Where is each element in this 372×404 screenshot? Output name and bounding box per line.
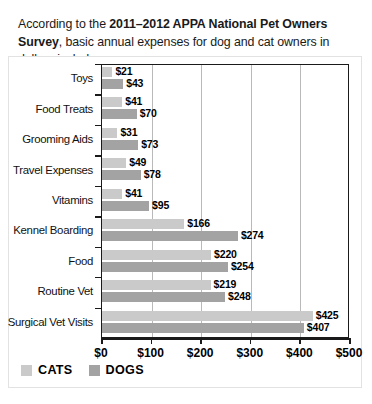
- category-label: Kennel Boarding: [13, 224, 93, 236]
- category-label: Food: [68, 255, 93, 267]
- legend-swatch-dogs-icon: [89, 365, 100, 376]
- y-tick: [95, 64, 101, 65]
- bar-dogs: [102, 292, 225, 302]
- x-axis-label: $500: [336, 346, 363, 360]
- legend-label-dogs: DOGS: [106, 363, 144, 377]
- bar-dogs: [102, 201, 149, 211]
- bar-row: $21$43: [102, 65, 348, 95]
- x-tick: [151, 338, 153, 344]
- bar-row: $41$95: [102, 187, 348, 217]
- x-tick: [299, 338, 301, 344]
- x-tick: [200, 338, 202, 344]
- pet-expenses-infographic: According to the 2011–2012 APPA National…: [0, 0, 372, 404]
- bar-value-label: $41: [125, 187, 142, 199]
- category-label: Surgical Vet Visits: [8, 316, 93, 328]
- category-label: Toys: [71, 72, 93, 84]
- bar-value-label: $166: [187, 217, 210, 229]
- bar-value-label: $248: [228, 290, 251, 302]
- y-tick: [95, 277, 101, 278]
- bar-dogs: [102, 79, 123, 89]
- bar-cats: [102, 189, 122, 199]
- bar-value-label: $220: [214, 248, 237, 260]
- x-tick: [250, 338, 252, 344]
- x-axis-label: $300: [236, 346, 263, 360]
- legend-item-cats: CATS: [21, 363, 73, 377]
- x-axis-label: $0: [94, 346, 107, 360]
- bar-value-label: $31: [120, 126, 137, 138]
- category-label: Travel Expenses: [13, 164, 93, 176]
- y-tick: [95, 155, 101, 156]
- bar-cats: [102, 219, 184, 229]
- y-tick: [95, 216, 101, 217]
- legend-swatch-cats-icon: [21, 365, 32, 376]
- bar-row: $166$274: [102, 217, 348, 247]
- bar-dogs: [102, 262, 228, 272]
- bar-dogs: [102, 109, 137, 119]
- bar-value-label: $43: [126, 77, 143, 89]
- bar-value-label: $219: [214, 278, 237, 290]
- category-axis: ToysFood TreatsGrooming AidsTravel Expen…: [9, 64, 97, 338]
- legend-item-dogs: DOGS: [89, 363, 144, 377]
- bar-value-label: $274: [241, 229, 264, 241]
- category-label: Routine Vet: [37, 285, 93, 297]
- y-tick: [95, 308, 101, 309]
- bar-value-label: $425: [316, 309, 339, 321]
- bar-rows: $21$43$41$70$31$73$49$78$41$95$166$274$2…: [102, 65, 348, 337]
- bar-cats: [102, 158, 126, 168]
- bar-value-label: $254: [231, 260, 254, 272]
- bar-row: $31$73: [102, 126, 348, 156]
- chart-legend: CATS DOGS: [21, 363, 144, 377]
- category-label: Food Treats: [36, 103, 93, 115]
- bar-row: $220$254: [102, 248, 348, 278]
- plot-area: $21$43$41$70$31$73$49$78$41$95$166$274$2…: [101, 64, 349, 338]
- bar-cats: [102, 311, 313, 321]
- bar-value-label: $78: [144, 168, 161, 180]
- bar-value-label: $49: [129, 156, 146, 168]
- bar-value-label: $73: [141, 138, 158, 150]
- bar-dogs: [102, 323, 304, 333]
- x-tick: [349, 338, 351, 344]
- bar-row: $219$248: [102, 278, 348, 308]
- y-tick: [95, 125, 101, 126]
- bar-value-label: $21: [115, 65, 132, 77]
- bar-dogs: [102, 231, 238, 241]
- bar-row: $49$78: [102, 156, 348, 186]
- bar-cats: [102, 67, 112, 77]
- x-axis-label: $400: [286, 346, 313, 360]
- x-axis-label: $200: [187, 346, 214, 360]
- y-tick: [95, 186, 101, 187]
- bar-cats: [102, 128, 117, 138]
- bar-row: $425$407: [102, 309, 348, 339]
- bar-value-label: $41: [125, 95, 142, 107]
- chart-panel: ToysFood TreatsGrooming AidsTravel Expen…: [8, 56, 362, 388]
- intro-text-before: According to the: [18, 17, 109, 31]
- bar-row: $41$70: [102, 95, 348, 125]
- y-tick: [95, 94, 101, 95]
- bar-dogs: [102, 170, 141, 180]
- category-label: Grooming Aids: [22, 133, 93, 145]
- legend-label-cats: CATS: [38, 363, 73, 377]
- bar-value-label: $95: [152, 199, 169, 211]
- y-tick: [95, 247, 101, 248]
- x-axis-label: $100: [137, 346, 164, 360]
- x-axis-line: [101, 338, 349, 340]
- bar-cats: [102, 280, 211, 290]
- bar-value-label: $407: [307, 321, 330, 333]
- x-tick: [101, 338, 103, 344]
- bar-cats: [102, 97, 122, 107]
- category-label: Vitamins: [52, 194, 93, 206]
- bar-dogs: [102, 140, 138, 150]
- bar-value-label: $70: [140, 107, 157, 119]
- bar-cats: [102, 250, 211, 260]
